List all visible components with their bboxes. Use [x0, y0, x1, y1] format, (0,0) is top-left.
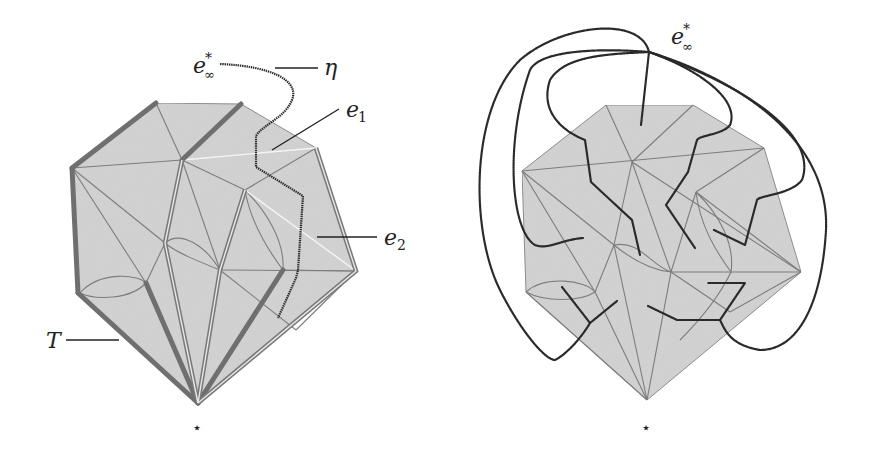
label-T: T: [46, 328, 63, 353]
label-e-inf-sup: *: [205, 50, 212, 66]
label-e-inf-right-sub: ∞: [682, 39, 693, 54]
label-star-root: ⋆: [192, 418, 202, 437]
label-eta: η: [324, 55, 337, 80]
label-e2-sub: 2: [397, 237, 406, 253]
label-star-root-right: ⋆: [641, 418, 651, 437]
label-e1-sub: 1: [358, 109, 367, 125]
left-panel: e * ∞ η e 1 e 2 T ⋆: [46, 50, 406, 437]
label-e-inf-sub: ∞: [204, 67, 215, 82]
right-panel: e * ∞ ⋆: [480, 21, 827, 437]
label-e-inf-right-sup: *: [683, 21, 690, 37]
triangulated-polygon-right: [522, 105, 801, 400]
label-e2: e: [384, 225, 397, 250]
figure-canvas: e * ∞ η e 1 e 2 T ⋆: [0, 0, 871, 456]
